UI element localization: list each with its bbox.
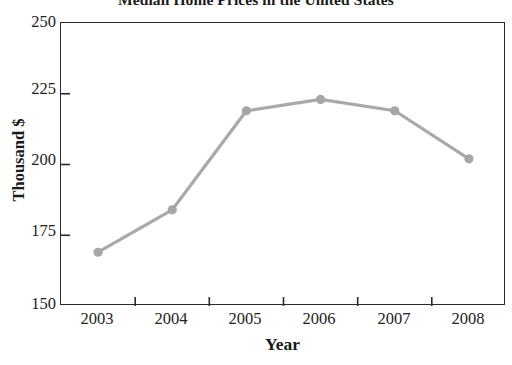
- x-tick-label-2003: 2003: [57, 310, 137, 328]
- x-tick-label-2006: 2006: [279, 310, 359, 328]
- y-axis-title: Thousand $: [9, 100, 29, 220]
- data-point-2008: [464, 154, 473, 163]
- x-axis-title: Year: [60, 334, 505, 355]
- plot-svg: [61, 23, 506, 306]
- line-chart-figure: Median Home Prices in the United States …: [0, 0, 512, 365]
- data-series-line: [98, 99, 469, 252]
- data-point-2006: [316, 95, 325, 104]
- plot-area: [60, 22, 505, 305]
- x-tick-label-2004: 2004: [131, 310, 211, 328]
- chart-title: Median Home Prices in the United States: [0, 0, 512, 9]
- y-tick-label-150: 150: [4, 296, 56, 313]
- y-tick-marks: [61, 94, 70, 236]
- data-point-2007: [390, 106, 399, 115]
- data-point-2003: [93, 248, 102, 257]
- y-tick-label-175: 175: [4, 223, 56, 240]
- x-tick-label-2005: 2005: [205, 310, 285, 328]
- y-tick-label-250: 250: [4, 14, 56, 31]
- data-point-2004: [168, 205, 177, 214]
- x-tick-label-2007: 2007: [354, 310, 434, 328]
- y-tick-label-225: 225: [4, 81, 56, 98]
- data-point-2005: [242, 106, 251, 115]
- x-tick-marks: [135, 297, 432, 306]
- x-tick-label-2008: 2008: [428, 310, 508, 328]
- data-point-markers: [93, 95, 473, 257]
